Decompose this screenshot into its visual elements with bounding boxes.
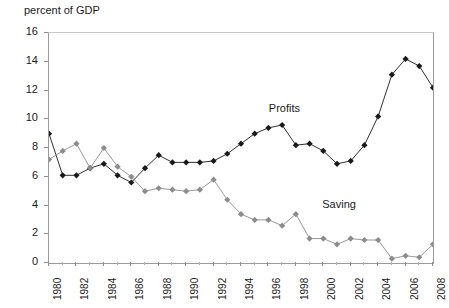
x-axis-minor-tick-mark: [363, 262, 364, 265]
data-point-marker: [348, 235, 354, 241]
y-axis-tick-mark: [44, 118, 48, 119]
y-axis-tick-label: 10: [8, 111, 38, 123]
x-axis-tick-label: 1992: [217, 278, 228, 300]
data-point-marker: [252, 131, 258, 137]
data-point-marker: [320, 235, 326, 241]
data-point-marker: [60, 172, 66, 178]
data-point-marker: [375, 113, 381, 119]
x-axis-tick-label: 1986: [134, 278, 145, 300]
x-axis-tick-mark: [48, 262, 49, 266]
y-axis-tick-mark: [44, 32, 48, 33]
x-axis-minor-tick-mark: [62, 262, 63, 265]
x-axis-tick-mark: [350, 262, 351, 266]
data-point-marker: [224, 151, 230, 157]
y-axis-tick-label: 8: [8, 140, 38, 152]
y-axis-tick-mark: [44, 205, 48, 206]
x-axis-tick-mark: [322, 262, 323, 266]
y-axis-tick-mark: [44, 147, 48, 148]
data-point-marker: [416, 63, 422, 69]
y-axis-tick-mark: [44, 233, 48, 234]
x-axis-minor-tick-mark: [418, 262, 419, 265]
y-axis-tick-label: 16: [8, 25, 38, 37]
x-axis-tick-mark: [405, 262, 406, 266]
x-axis-tick-mark: [185, 262, 186, 266]
data-point-marker: [306, 235, 312, 241]
x-axis-tick-mark: [213, 262, 214, 266]
series-label-profits: Profits: [269, 102, 300, 114]
data-point-marker: [197, 187, 203, 193]
data-point-marker: [87, 165, 93, 171]
y-axis-tick-label: 0: [8, 255, 38, 267]
data-point-marker: [101, 145, 107, 151]
x-axis-minor-tick-mark: [117, 262, 118, 265]
data-point-marker: [156, 185, 162, 191]
x-axis-tick-label: 1990: [189, 278, 200, 300]
data-point-marker: [73, 172, 79, 178]
x-axis-tick-label: 1998: [299, 278, 310, 300]
x-axis-tick-label: 1996: [271, 278, 282, 300]
x-axis-tick-label: 1984: [107, 278, 118, 300]
y-axis-tick-mark: [44, 61, 48, 62]
x-axis-tick-label: 2000: [326, 278, 337, 300]
data-point-marker: [265, 217, 271, 223]
x-axis-tick-label: 2002: [354, 278, 365, 300]
y-axis-tick-mark: [44, 90, 48, 91]
data-point-marker: [389, 256, 395, 262]
y-axis-tick-label: 6: [8, 169, 38, 181]
data-point-marker: [210, 177, 216, 183]
x-axis-minor-tick-mark: [226, 262, 227, 265]
x-axis-tick-label: 1982: [79, 278, 90, 300]
x-axis-tick-mark: [130, 262, 131, 266]
y-axis-tick-mark: [44, 176, 48, 177]
x-axis-minor-tick-mark: [199, 262, 200, 265]
data-point-marker: [238, 141, 244, 147]
data-point-marker: [169, 187, 175, 193]
series-svg: [49, 33, 433, 263]
data-point-marker: [197, 159, 203, 165]
x-axis-tick-mark: [240, 262, 241, 266]
data-point-marker: [114, 164, 120, 170]
y-axis-title: percent of GDP: [24, 4, 100, 16]
x-axis-minor-tick-mark: [309, 262, 310, 265]
x-axis-tick-label: 1988: [162, 278, 173, 300]
chart-container: percent of GDP 0246810121416198019821984…: [0, 0, 449, 308]
x-axis-minor-tick-mark: [89, 262, 90, 265]
x-axis-tick-mark: [103, 262, 104, 266]
data-point-marker: [265, 125, 271, 131]
x-axis-minor-tick-mark: [171, 262, 172, 265]
data-point-marker: [306, 141, 312, 147]
data-point-marker: [361, 237, 367, 243]
data-point-marker: [252, 217, 258, 223]
series-label-saving: Saving: [322, 198, 356, 210]
data-point-marker: [169, 159, 175, 165]
data-point-marker: [375, 237, 381, 243]
x-axis-tick-label: 1994: [244, 278, 255, 300]
data-point-marker: [183, 159, 189, 165]
x-axis-tick-label: 2006: [409, 278, 420, 300]
x-axis-tick-mark: [158, 262, 159, 266]
y-axis-tick-label: 2: [8, 226, 38, 238]
x-axis-tick-mark: [377, 262, 378, 266]
plot-area: [48, 32, 434, 264]
x-axis-minor-tick-mark: [144, 262, 145, 265]
data-point-marker: [73, 141, 79, 147]
x-axis-minor-tick-mark: [391, 262, 392, 265]
x-axis-tick-mark: [75, 262, 76, 266]
x-axis-tick-label: 2008: [436, 278, 447, 300]
y-axis-tick-label: 12: [8, 83, 38, 95]
x-axis-minor-tick-mark: [336, 262, 337, 265]
data-point-marker: [49, 131, 52, 137]
x-axis-tick-mark: [267, 262, 268, 266]
data-point-marker: [183, 188, 189, 194]
data-point-marker: [60, 148, 66, 154]
x-axis-tick-mark: [295, 262, 296, 266]
data-point-marker: [210, 158, 216, 164]
x-axis-minor-tick-mark: [281, 262, 282, 265]
x-axis-tick-mark: [432, 262, 433, 266]
data-point-marker: [334, 241, 340, 247]
data-point-marker: [402, 253, 408, 259]
x-axis-tick-label: 2004: [381, 278, 392, 300]
y-axis-tick-label: 4: [8, 198, 38, 210]
x-axis-tick-label: 1980: [52, 278, 63, 300]
data-point-marker: [279, 122, 285, 128]
